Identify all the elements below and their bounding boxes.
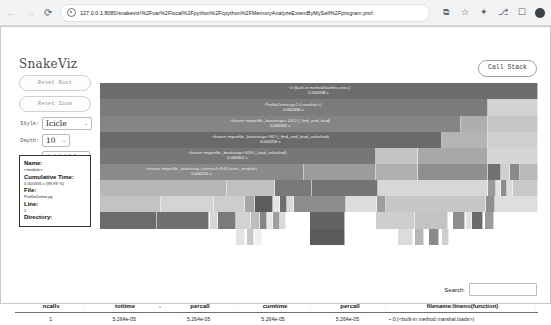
icicle-block[interactable]: [488, 180, 496, 196]
icicle-block[interactable]: [255, 229, 261, 245]
extensions-icon[interactable]: ✦: [478, 7, 490, 19]
icicle-block[interactable]: [442, 132, 488, 148]
icicle-block[interactable]: <frozen importlib._bootstrap>:659:(_load…: [100, 148, 376, 164]
icicle-block[interactable]: [251, 212, 260, 229]
icicle-block[interactable]: [245, 196, 256, 212]
depth-label: Depth:: [19, 138, 39, 144]
icicle-block[interactable]: [346, 196, 377, 212]
icicle-block[interactable]: [280, 212, 286, 229]
table-header-percall1[interactable]: percall↕: [163, 303, 237, 309]
icicle-block[interactable]: [453, 212, 465, 229]
reload-icon[interactable]: ⟳: [42, 7, 54, 19]
icicle-block[interactable]: [472, 212, 483, 229]
icicle-block[interactable]: [386, 196, 487, 212]
table-header-filename[interactable]: filename:lineno(function)↕: [387, 303, 538, 309]
call-stack-button[interactable]: Call Stack: [478, 60, 537, 77]
icicle-block[interactable]: [520, 164, 538, 180]
icicle-block[interactable]: [461, 116, 487, 132]
sort-indicator-icon[interactable]: ▴: [159, 303, 161, 308]
icicle-block[interactable]: [161, 196, 214, 212]
icicle-block[interactable]: [376, 148, 418, 164]
reset-zoom-button[interactable]: Reset Zoom: [19, 96, 91, 112]
icicle-block[interactable]: [304, 164, 376, 180]
icicle-block[interactable]: [273, 212, 280, 229]
icicle-block[interactable]: [236, 229, 245, 245]
install-app-icon[interactable]: ⧉: [440, 7, 452, 19]
icicle-block[interactable]: [378, 180, 488, 196]
icicle-block[interactable]: [488, 116, 538, 132]
icicle-block[interactable]: [510, 164, 521, 180]
icicle-block[interactable]: [418, 148, 488, 164]
style-select[interactable]: Icicle ⌄: [42, 117, 92, 130]
icicle-block[interactable]: [236, 212, 251, 229]
sort-indicator-icon[interactable]: ↕: [309, 303, 311, 308]
icicle-block[interactable]: [310, 212, 345, 229]
icicle-block[interactable]: [398, 229, 413, 245]
icicle-block[interactable]: [210, 212, 219, 229]
table-header-percall2[interactable]: percall↕: [313, 303, 387, 309]
profile-avatar-icon[interactable]: [535, 8, 545, 18]
icicle-block[interactable]: ProfileDemo.py:1:(<module>)0.000336 s: [100, 99, 488, 116]
icicle-block[interactable]: [429, 229, 440, 245]
icicle-block[interactable]: [488, 164, 501, 180]
icicle-block[interactable]: [488, 148, 538, 164]
icicle-block[interactable]: [485, 212, 494, 229]
back-icon[interactable]: ←: [6, 7, 18, 19]
forward-icon[interactable]: →: [24, 7, 36, 19]
search-input[interactable]: [469, 283, 537, 296]
icicle-block[interactable]: [260, 212, 267, 229]
bookmark-star-icon[interactable]: ☆: [459, 7, 471, 19]
sort-indicator-icon[interactable]: ↕: [83, 303, 85, 308]
icicle-block[interactable]: [280, 196, 288, 212]
depth-select[interactable]: 10 ⌄: [42, 134, 70, 147]
icicle-block[interactable]: [100, 180, 227, 196]
icicle-block[interactable]: [376, 212, 415, 229]
table-header-ncalls[interactable]: ncalls↕: [15, 303, 87, 309]
style-select-value: Icicle: [46, 120, 67, 128]
reset-root-button[interactable]: Reset Root: [19, 75, 91, 91]
icicle-block[interactable]: <frozen importlib._bootstrap_external>:8…: [100, 164, 304, 180]
icicle-block[interactable]: [247, 229, 254, 245]
table-row[interactable]: 15.264e-055.264e-055.264e-055.264e-05~:0…: [15, 313, 538, 325]
icicle-block[interactable]: [100, 212, 157, 229]
icicle-block[interactable]: [415, 229, 424, 245]
icicle-block[interactable]: ~:0:(built-in method builtins.exec)0.000…: [100, 83, 538, 99]
icicle-block[interactable]: [495, 196, 538, 212]
side-panel-icon[interactable]: ☐: [516, 7, 528, 19]
icicle-block[interactable]: [415, 212, 448, 229]
icicle-block[interactable]: [227, 180, 275, 196]
icicle-block[interactable]: [294, 196, 347, 212]
table-header-label: tottime: [115, 303, 135, 309]
sort-indicator-icon[interactable]: ↕: [534, 303, 536, 308]
icicle-block-time: 0.000316 s: [260, 140, 280, 145]
icicle-block[interactable]: <frozen importlib._bootstrap>:967:(_find…: [100, 132, 442, 148]
icicle-block[interactable]: [501, 164, 510, 180]
icicle-block[interactable]: [488, 132, 538, 148]
icicle-block[interactable]: <frozen importlib._bootstrap>:1002:(_fin…: [100, 116, 461, 132]
icicle-block[interactable]: [513, 180, 538, 196]
icicle-block[interactable]: [275, 180, 312, 196]
icicle-block[interactable]: [376, 164, 418, 180]
sort-indicator-icon[interactable]: ↕: [233, 303, 235, 308]
icicle-block[interactable]: [273, 196, 280, 212]
table-header-cumtime[interactable]: cumtime↕: [237, 303, 313, 309]
address-bar[interactable]: 127.0.0.1:8080/snakeviz/%2Fvar%2Flocal%2…: [60, 4, 430, 22]
icicle-graph[interactable]: ~:0:(built-in method builtins.exec)0.000…: [100, 83, 538, 277]
icicle-block[interactable]: [157, 212, 210, 229]
icicle-block[interactable]: [214, 196, 245, 212]
icicle-block[interactable]: [442, 229, 449, 245]
site-info-icon[interactable]: [67, 8, 76, 17]
icicle-block[interactable]: [218, 212, 236, 229]
icicle-block[interactable]: [377, 196, 386, 212]
icicle-block[interactable]: [310, 229, 345, 245]
icicle-block[interactable]: [255, 196, 273, 212]
split-view-icon[interactable]: ⎇: [497, 7, 509, 19]
table-header-tottime[interactable]: tottime▴: [87, 303, 163, 309]
info-directory-label: Directory:: [24, 213, 86, 221]
icicle-block[interactable]: [418, 164, 488, 180]
icicle-block[interactable]: [488, 99, 538, 116]
icicle-block[interactable]: [486, 196, 495, 212]
icicle-block[interactable]: [100, 196, 161, 212]
sort-indicator-icon[interactable]: ↕: [383, 303, 385, 308]
icicle-block[interactable]: [312, 180, 378, 196]
